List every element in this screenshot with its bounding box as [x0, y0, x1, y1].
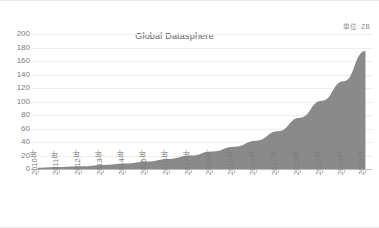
x-axis-tick-label: 2018年: [205, 150, 213, 175]
x-axis-labels: 2010年2011年2012年2013年2014年2015年2016年2017年…: [31, 170, 372, 228]
y-axis-tick-label: 40: [6, 138, 30, 146]
x-axis-tick-mark: [256, 170, 257, 173]
x-axis-tick-label: 2015年: [139, 150, 147, 175]
x-axis-tick-label: 2022年: [292, 150, 300, 175]
x-axis-tick-mark: [212, 170, 213, 173]
x-axis-tick-label: 2019年: [227, 150, 235, 175]
x-axis-tick-mark: [59, 170, 60, 173]
x-axis-tick-label: 2021年: [271, 150, 279, 175]
x-axis-tick-label: 2014年: [117, 150, 125, 175]
x-axis-tick-label: 2023年: [314, 150, 322, 175]
x-axis-tick-mark: [365, 170, 366, 173]
y-axis-tick-label: 20: [6, 152, 30, 160]
chart-card: 单位: ZB Global Datasphere 200180160140120…: [0, 0, 379, 228]
x-axis-tick-mark: [234, 170, 235, 173]
y-axis-tick-label: 0: [6, 165, 30, 173]
x-axis-tick-label: 2010年: [30, 150, 38, 175]
y-axis-tick-label: 140: [6, 71, 30, 79]
x-axis-tick-label: 2012年: [74, 150, 82, 175]
y-axis-tick-label: 180: [6, 44, 30, 52]
x-axis-tick-mark: [125, 170, 126, 173]
x-axis-tick-mark: [81, 170, 82, 173]
x-axis-tick-mark: [300, 170, 301, 173]
x-axis-tick-label: 2017年: [183, 150, 191, 175]
x-axis-tick-label: 2013年: [96, 150, 104, 175]
x-axis-tick-label: 2025年: [358, 150, 366, 175]
x-axis-tick-label: 2020年: [249, 150, 257, 175]
x-axis-tick-mark: [278, 170, 279, 173]
x-axis-tick-label: 2011年: [52, 151, 60, 175]
y-axis-labels: 200180160140120100806040200: [6, 1, 30, 228]
plot-area: 200180160140120100806040200 2010年2011年20…: [0, 1, 379, 228]
y-axis-tick-label: 120: [6, 84, 30, 92]
y-axis-tick-label: 60: [6, 125, 30, 133]
y-axis-tick-label: 160: [6, 57, 30, 65]
x-axis-tick-mark: [103, 170, 104, 173]
x-axis-tick-label: 2024年: [336, 150, 344, 175]
y-axis-tick-label: 80: [6, 111, 30, 119]
y-axis-tick-label: 200: [6, 30, 30, 38]
x-axis-tick-label: 2016年: [161, 150, 169, 175]
y-axis-tick-label: 100: [6, 98, 30, 106]
